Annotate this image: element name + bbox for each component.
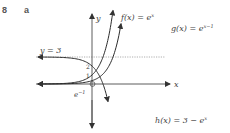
curve-g-left-tail xyxy=(38,81,92,84)
label-h: h(x) = 3 − ex xyxy=(155,115,207,125)
y-tick-2: 2 xyxy=(86,63,90,70)
asymptote-label: y = 3 xyxy=(39,46,61,55)
x-tick-e-inverse: e−1 xyxy=(74,89,86,99)
label-f: f(x) = ex xyxy=(120,12,154,22)
curve-g xyxy=(92,24,121,81)
y-tick-1: 1 xyxy=(86,72,90,79)
label-g: g(x) = ex−1 xyxy=(171,23,214,33)
curve-h-left-tail xyxy=(38,57,92,66)
x-axis-label: x xyxy=(174,80,179,89)
graph: y = 3 x y 1 2 e−1 f(x) = ex g(x) = ex−1 … xyxy=(0,0,230,133)
y-axis-label: y xyxy=(95,14,101,23)
